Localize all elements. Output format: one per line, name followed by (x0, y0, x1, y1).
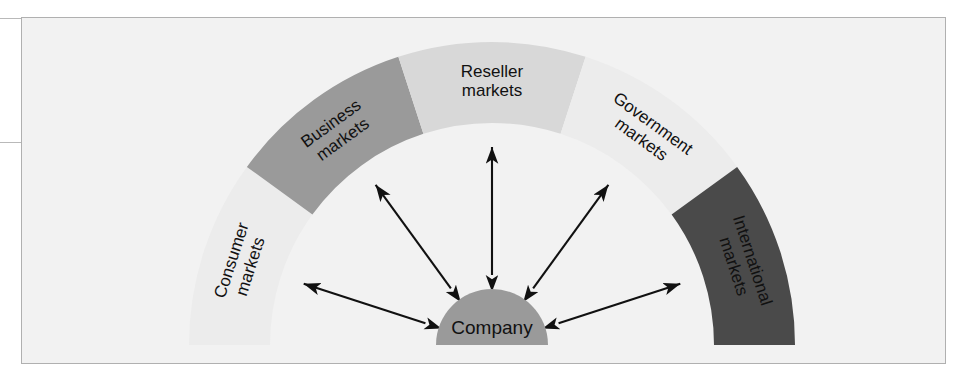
segment-label-line2-reseller: markets (462, 82, 522, 101)
figure-page: ConsumermarketsBusinessmarketsResellerma… (0, 0, 963, 381)
company-hub: Company (436, 289, 548, 345)
market-segment-reseller[interactable]: Resellermarkets (398, 42, 585, 134)
segment-label-line1-reseller: Reseller (461, 62, 524, 81)
arrow-to-consumer (304, 284, 426, 324)
market-types-diagram: ConsumermarketsBusinessmarketsResellerma… (0, 0, 963, 381)
arrow-to-business (376, 185, 451, 289)
arrow-to-international (559, 284, 681, 324)
company-label: Company (451, 317, 533, 338)
arrow-to-government (533, 185, 608, 289)
segment-label-reseller: Resellermarkets (461, 62, 524, 101)
